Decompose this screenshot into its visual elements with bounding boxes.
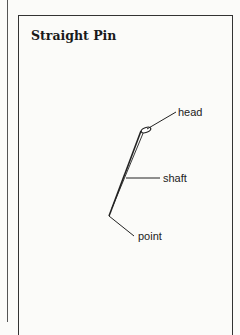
pin-icon xyxy=(109,126,152,216)
label-shaft: shaft xyxy=(163,172,187,184)
label-head: head xyxy=(178,106,202,118)
head-leader-line xyxy=(147,112,176,129)
point-leader-line xyxy=(109,216,134,236)
label-point: point xyxy=(138,230,162,242)
